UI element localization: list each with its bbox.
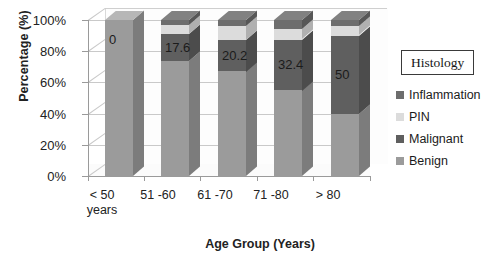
x-tick-mark-0 (88, 176, 89, 181)
x-category-label-0: < 50years (71, 188, 133, 218)
legend-label-malignant: Malignant (409, 132, 463, 146)
legend-swatch-inflammation (396, 91, 404, 99)
data-label-0: 0 (109, 32, 116, 47)
x-category-label-2: 61 -70 (184, 188, 246, 203)
depth-edge-60 (88, 70, 106, 83)
bar-segment-pin-2[interactable] (218, 26, 246, 40)
bar-segment-side (189, 52, 200, 176)
bar-segment-side (246, 62, 257, 176)
bar-segment-side (302, 30, 313, 90)
x-tick-mark-5 (370, 176, 371, 181)
depth-edge-100 (88, 8, 106, 21)
bar-segment-benign-1[interactable] (161, 61, 189, 176)
x-tick-mark-2 (200, 176, 201, 181)
x-category-label-3: 71 -80 (240, 188, 302, 203)
x-tick-mark-1 (144, 176, 145, 181)
bar-segment-inflammation-2[interactable] (218, 20, 246, 26)
data-label-4: 50 (335, 67, 349, 82)
legend-label-benign: Benign (409, 154, 448, 168)
legend-item-inflammation[interactable]: Inflammation (396, 88, 481, 102)
x-axis-title: Age Group (Years) (0, 237, 498, 251)
bar-segment-inflammation-3[interactable] (274, 20, 302, 29)
depth-edge-80 (88, 39, 106, 52)
bar-segment-benign-4[interactable] (331, 114, 359, 176)
depth-edge-40 (88, 102, 106, 115)
x-axis-line (88, 176, 370, 177)
bar-segment-pin-3[interactable] (274, 29, 302, 39)
y-tick-mark-40 (82, 114, 88, 115)
legend-swatch-pin (396, 113, 404, 121)
x-category-label-1: 51 -60 (127, 188, 189, 203)
y-tick-mark-100 (82, 20, 88, 21)
x-category-label-4: > 80 (297, 188, 359, 203)
y-tick-mark-60 (82, 82, 88, 83)
bar-column-3[interactable] (274, 20, 302, 176)
data-label-1: 17.6 (165, 40, 190, 55)
legend-label-pin: PIN (409, 110, 430, 124)
stacked-bar-chart: Percentage (%) 100% 80% 60% 40% 20% 0% (0, 0, 498, 267)
legend-title: Histology (411, 55, 464, 70)
bar-segment-pin-4[interactable] (331, 26, 359, 35)
legend-item-benign[interactable]: Benign (396, 154, 448, 168)
bar-segment-pin-1[interactable] (161, 25, 189, 34)
bar-segment-benign-3[interactable] (274, 90, 302, 176)
y-tick-mark-20 (82, 145, 88, 146)
legend-swatch-benign (396, 157, 404, 165)
bar-column-2[interactable] (218, 20, 246, 176)
bar-segment-side (359, 26, 370, 114)
depth-edge-20 (88, 133, 106, 146)
data-label-3: 32.4 (278, 57, 303, 72)
bar-segment-side (359, 104, 370, 176)
bar-segment-inflammation-1[interactable] (161, 20, 189, 25)
legend-title-box: Histology (401, 50, 474, 75)
bar-segment-benign-2[interactable] (218, 71, 246, 176)
bar-segment-side (133, 10, 144, 176)
data-label-2: 20.2 (222, 48, 247, 63)
back-wall-top-edge (105, 8, 387, 9)
bar-segment-inflammation-4[interactable] (331, 20, 359, 26)
y-tick-mark-80 (82, 51, 88, 52)
legend-item-malignant[interactable]: Malignant (396, 132, 463, 146)
x-tick-mark-3 (257, 176, 258, 181)
legend-swatch-malignant (396, 135, 404, 143)
x-tick-mark-4 (313, 176, 314, 181)
legend-item-pin[interactable]: PIN (396, 110, 430, 124)
y-axis-line (88, 20, 89, 176)
bar-segment-side (302, 81, 313, 176)
bar-column-4[interactable] (331, 20, 359, 176)
legend-label-inflammation: Inflammation (409, 88, 481, 102)
